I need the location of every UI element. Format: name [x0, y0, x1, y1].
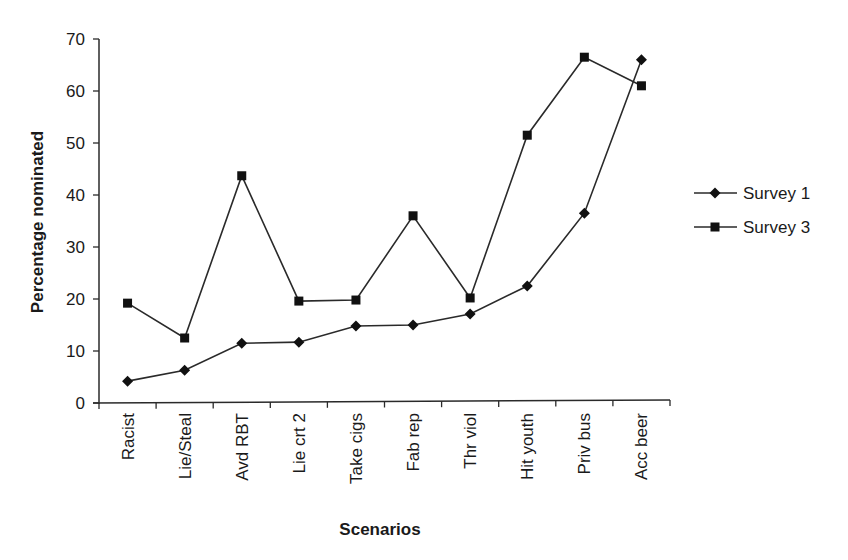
- x-axis-line: [93, 400, 670, 403]
- line-chart: 010203040506070 RacistLie/StealAvd RBTLi…: [0, 0, 848, 560]
- x-tick-label: Priv bus: [575, 413, 594, 474]
- square-marker: [523, 131, 532, 140]
- diamond-marker: [236, 338, 247, 349]
- diamond-marker: [408, 320, 419, 331]
- x-tick-label: Take cigs: [347, 413, 366, 484]
- series-layer: [122, 53, 647, 387]
- series-line: [128, 60, 642, 381]
- y-tick-label: 10: [66, 342, 85, 361]
- y-tick-label: 0: [76, 394, 85, 413]
- y-tick-label: 50: [66, 134, 85, 153]
- diamond-marker: [122, 376, 133, 387]
- legend: Survey 1Survey 3: [694, 184, 810, 237]
- diamond-marker: [465, 309, 476, 320]
- x-tick-label: Racist: [119, 413, 138, 461]
- x-tick-label: Fab rep: [404, 413, 423, 472]
- y-tick-label: 40: [66, 186, 85, 205]
- square-marker: [237, 171, 246, 180]
- y-tick-label: 30: [66, 238, 85, 257]
- y-axis-title: Percentage nominated: [28, 131, 47, 313]
- square-marker: [637, 81, 646, 90]
- square-marker: [294, 297, 303, 306]
- x-tick-label: Hit youth: [518, 413, 537, 480]
- legend-label: Survey 3: [743, 218, 810, 237]
- x-axis-title: Scenarios: [339, 520, 420, 539]
- square-marker: [351, 296, 360, 305]
- legend-item: Survey 1: [694, 184, 810, 203]
- x-axis: RacistLie/StealAvd RBTLie crt 2Take cigs…: [93, 400, 670, 484]
- diamond-marker: [350, 321, 361, 332]
- series-survey-1: [122, 54, 647, 386]
- y-tick-label: 60: [66, 82, 85, 101]
- diamond-legend-icon: [710, 188, 721, 199]
- square-marker: [180, 334, 189, 343]
- legend-item: Survey 3: [694, 218, 810, 237]
- y-axis: 010203040506070: [66, 30, 99, 413]
- x-tick-label: Avd RBT: [233, 413, 252, 481]
- y-tick-label: 70: [66, 30, 85, 49]
- square-marker: [466, 293, 475, 302]
- x-tick-label: Lie/Steal: [176, 413, 195, 479]
- x-tick-label: Thr viol: [461, 413, 480, 469]
- diamond-marker: [293, 337, 304, 348]
- square-marker: [123, 299, 132, 308]
- series-survey-3: [123, 53, 646, 343]
- series-line: [128, 57, 642, 338]
- square-marker: [409, 211, 418, 220]
- x-tick-label: Lie crt 2: [290, 413, 309, 473]
- legend-label: Survey 1: [743, 184, 810, 203]
- diamond-marker: [179, 365, 190, 376]
- square-legend-icon: [711, 223, 720, 232]
- y-tick-label: 20: [66, 290, 85, 309]
- square-marker: [580, 53, 589, 62]
- diamond-marker: [636, 54, 647, 65]
- x-tick-label: Acc beer: [632, 413, 651, 480]
